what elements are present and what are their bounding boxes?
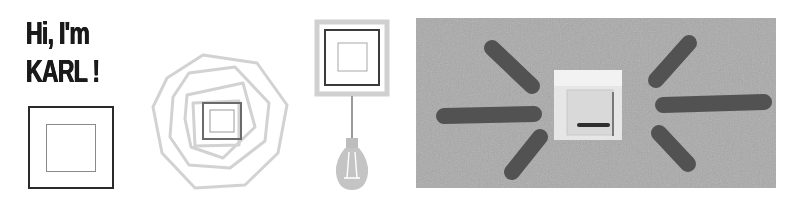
light-bulb-icon <box>336 138 368 190</box>
light-switch-plate <box>554 70 622 140</box>
stripe-left <box>444 114 534 116</box>
switch-inner-square <box>46 124 96 172</box>
switch-photo <box>416 18 776 188</box>
switch-photo-image <box>416 18 776 188</box>
headline-line-1: Hi, I'm <box>26 14 98 52</box>
headline-line-2: KARL ! <box>26 52 98 90</box>
switch-with-bulb-icon <box>305 10 405 195</box>
headline: Hi, I'm KARL ! <box>26 14 98 90</box>
stripe-right <box>663 102 764 105</box>
nested-polygons-icon <box>145 45 300 195</box>
